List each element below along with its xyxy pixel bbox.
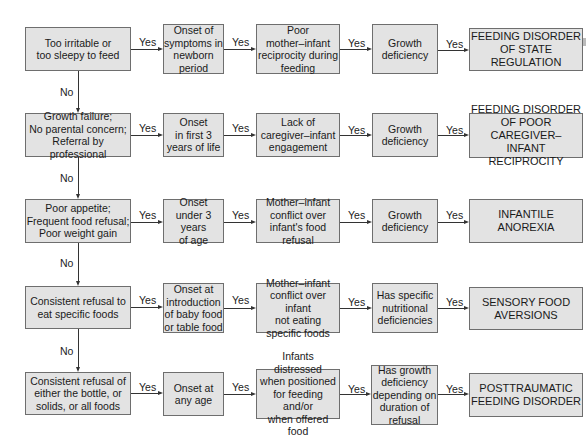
- diagnosis-box-state-regulation: FEEDING DISORDER OF STATE REGULATION: [469, 28, 583, 71]
- onset-text: Onset under 3 years of age: [164, 196, 223, 246]
- diagnosis-text: SENSORY FOOD AVERSIONS: [482, 296, 570, 322]
- diagnosis-text: INFANTILE ANOREXIA: [470, 208, 582, 234]
- criterion-text: Consistent refusal of either the bottle,…: [30, 375, 126, 413]
- interaction-text: Mother–infant conflict over infant's foo…: [257, 196, 339, 246]
- arrow-right-icon: [367, 47, 372, 51]
- yes-connector: [131, 135, 158, 136]
- arrow-right-icon: [464, 392, 469, 396]
- growth-text: Has specific nutritional deficiencies: [377, 289, 434, 327]
- yes-connector: [131, 393, 158, 394]
- yes-label: Yes: [139, 294, 156, 306]
- growth-box-state-regulation: Growth deficiency: [372, 24, 438, 74]
- yes-label: Yes: [446, 124, 463, 136]
- criterion-text: Too irritable or too sleepy to feed: [37, 37, 120, 62]
- yes-label: Yes: [232, 36, 249, 48]
- interaction-box-poor-reciprocity: Lack of caregiver–infant engagement: [256, 113, 340, 157]
- interaction-text: Poor mother–infant reciprocity during fe…: [258, 24, 338, 74]
- no-label: No: [60, 172, 73, 184]
- yes-connector: [224, 308, 251, 309]
- arrow-right-icon: [158, 47, 163, 51]
- onset-box-state-regulation: Onset of symptoms in newborn period: [163, 24, 224, 74]
- yes-label: Yes: [348, 296, 365, 308]
- yes-label: Yes: [232, 122, 249, 134]
- onset-box-sensory-aversions: Onset at introduction of baby food or ta…: [163, 283, 224, 333]
- criterion-text: Growth failure; No parental concern; Ref…: [26, 110, 130, 160]
- arrow-right-icon: [367, 133, 372, 137]
- onset-text: Onset in first 3 years of life: [167, 116, 221, 154]
- criterion-text: Consistent refusal to eat specific foods: [30, 295, 126, 320]
- arrow-down-icon: [76, 194, 80, 199]
- yes-connector: [224, 394, 251, 395]
- criterion-text: Poor appetite; Frequent food refusal; Po…: [27, 202, 130, 240]
- yes-label: Yes: [232, 209, 249, 221]
- yes-label: Yes: [348, 209, 365, 221]
- yes-label: Yes: [232, 294, 249, 306]
- interaction-box-sensory-aversions: Mother–infant conflict over infant not e…: [256, 283, 340, 333]
- growth-text: Growth deficiency: [382, 123, 429, 148]
- onset-box-infantile-anorexia: Onset under 3 years of age: [163, 199, 224, 243]
- no-label: No: [60, 86, 73, 98]
- arrow-right-icon: [464, 133, 469, 137]
- yes-label: Yes: [446, 209, 463, 221]
- yes-label: Yes: [446, 38, 463, 50]
- diagnosis-box-infantile-anorexia: INFANTILE ANOREXIA: [469, 199, 583, 243]
- onset-box-posttraumatic: Onset at any age: [163, 372, 224, 416]
- interaction-text: Lack of caregiver–infant engagement: [261, 116, 336, 154]
- onset-text: Onset at introduction of baby food or ta…: [164, 283, 222, 333]
- yes-connector: [438, 308, 464, 309]
- arrow-right-icon: [158, 220, 163, 224]
- yes-connector: [340, 49, 367, 50]
- arrow-right-icon: [251, 306, 256, 310]
- arrow-right-icon: [464, 48, 469, 52]
- arrow-right-icon: [251, 47, 256, 51]
- yes-label: Yes: [446, 296, 463, 308]
- arrow-down-icon: [76, 108, 80, 113]
- criterion-box-state-regulation: Too irritable or too sleepy to feed: [25, 27, 131, 71]
- yes-connector: [131, 222, 158, 223]
- criterion-box-poor-reciprocity: Growth failure; No parental concern; Ref…: [25, 113, 131, 157]
- yes-label: Yes: [446, 383, 463, 395]
- yes-connector: [131, 49, 158, 50]
- interaction-box-infantile-anorexia: Mother–infant conflict over infant's foo…: [256, 199, 340, 243]
- arrow-right-icon: [158, 305, 163, 309]
- yes-label: Yes: [348, 383, 365, 395]
- onset-text: Onset of symptoms in newborn period: [164, 24, 223, 74]
- no-label: No: [60, 345, 73, 357]
- arrow-right-icon: [158, 391, 163, 395]
- yes-label: Yes: [139, 36, 156, 48]
- growth-box-infantile-anorexia: Growth deficiency: [372, 199, 438, 243]
- yes-connector: [224, 135, 251, 136]
- growth-text: Has growth deficiency depending on durat…: [373, 364, 437, 427]
- arrow-right-icon: [158, 133, 163, 137]
- arrow-right-icon: [251, 392, 256, 396]
- criterion-box-sensory-aversions: Consistent refusal to eat specific foods: [25, 286, 131, 329]
- yes-label: Yes: [232, 381, 249, 393]
- no-connector: [78, 71, 79, 108]
- yes-connector: [340, 222, 367, 223]
- yes-label: Yes: [139, 209, 156, 221]
- interaction-box-state-regulation: Poor mother–infant reciprocity during fe…: [256, 24, 340, 74]
- arrow-right-icon: [251, 220, 256, 224]
- arrow-right-icon: [366, 392, 371, 396]
- no-connector: [78, 329, 79, 367]
- interaction-text: Infants distressed when positioned for f…: [257, 350, 339, 438]
- arrow-down-icon: [76, 367, 80, 372]
- yes-label: Yes: [139, 381, 156, 393]
- arrow-right-icon: [464, 306, 469, 310]
- diagnosis-text: FEEDING DISORDER OF STATE REGULATION: [470, 30, 582, 69]
- diagnosis-box-poor-reciprocity: FEEDING DISORDER OF POOR CAREGIVER– INFA…: [469, 113, 583, 158]
- arrow-right-icon: [464, 220, 469, 224]
- yes-connector: [438, 222, 464, 223]
- no-connector: [78, 243, 79, 281]
- growth-text: Growth deficiency: [382, 37, 429, 62]
- onset-box-poor-reciprocity: Onset in first 3 years of life: [163, 113, 224, 157]
- diagnosis-box-sensory-aversions: SENSORY FOOD AVERSIONS: [469, 287, 583, 330]
- no-label: No: [60, 257, 73, 269]
- arrow-down-icon: [76, 281, 80, 286]
- arrow-right-icon: [367, 220, 372, 224]
- growth-box-poor-reciprocity: Growth deficiency: [372, 113, 438, 157]
- diagnosis-text: FEEDING DISORDER OF POOR CAREGIVER– INFA…: [470, 103, 582, 168]
- yes-label: Yes: [348, 124, 365, 136]
- yes-connector: [224, 49, 251, 50]
- arrow-right-icon: [251, 133, 256, 137]
